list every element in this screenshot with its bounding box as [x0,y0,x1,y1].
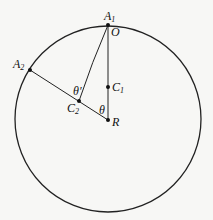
circle-diagram: A1 O A2 C1 C2 R θ′ θ [0,0,213,220]
label-O: O [111,25,120,39]
label-theta-prime: θ′ [73,84,82,98]
label-R: R [111,115,120,129]
point-C1 [106,85,110,89]
arc-O-C2 [79,25,108,101]
label-C2: C2 [67,101,79,116]
point-C2 [77,99,81,103]
label-A2: A2 [12,57,24,72]
point-A2 [28,68,32,72]
point-A1 [106,23,110,27]
label-C1: C1 [112,80,124,95]
label-theta: θ [99,103,105,117]
label-A1: A1 [103,9,115,24]
point-R [106,118,110,122]
